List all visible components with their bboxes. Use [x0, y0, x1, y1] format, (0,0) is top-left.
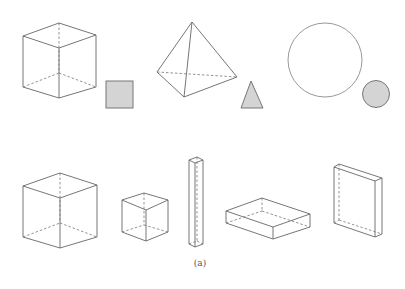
- tetrahedron: [157, 22, 237, 97]
- tall-square-prism: [189, 157, 203, 247]
- triangle-shape: [241, 81, 263, 108]
- circle-shape: [363, 81, 390, 108]
- figure-caption: (a): [194, 258, 206, 268]
- small-cube: [122, 193, 168, 241]
- large-cube: [23, 173, 97, 248]
- square-shape: [106, 81, 133, 108]
- sphere: [288, 23, 362, 97]
- flat-rectangular-box: [226, 198, 310, 239]
- geometric-figure: (a): [0, 0, 405, 289]
- cube: [23, 23, 96, 98]
- thin-upright-slab: [334, 164, 382, 237]
